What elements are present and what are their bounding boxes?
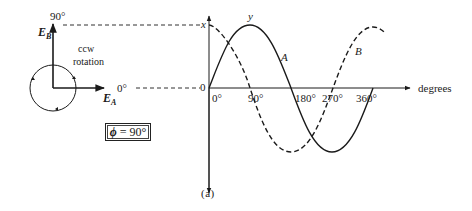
phi-symbol: ϕ — [110, 125, 117, 139]
tick-180: 180° — [295, 92, 316, 104]
tick-0: 0° — [212, 92, 222, 104]
peak-y-label: y — [247, 10, 253, 22]
figure-caption: (a) — [201, 187, 215, 199]
tick-360: 360° — [356, 92, 377, 104]
waveform-axes: degrees 0 x y 0° 90° 180° 270° 360° — [200, 10, 452, 193]
origin-label: 0 — [200, 81, 206, 93]
vector-EB-label: EB — [37, 25, 52, 41]
vector-EA-label: EA — [102, 91, 117, 107]
curve-B-label: B — [355, 45, 362, 57]
tick-270: 270° — [322, 92, 343, 104]
rotation-label-line2: rotation — [73, 56, 104, 67]
phase-value: = 90° — [117, 125, 147, 139]
angle-0-label: 0° — [117, 82, 127, 94]
diagram-canvas: 90° EB ccw rotation 0° EA degrees 0 x y … — [0, 0, 472, 211]
x-axis-label: degrees — [418, 82, 452, 94]
phase-difference-box: ϕ = 90° — [105, 123, 151, 141]
rotation-label-line1: ccw — [78, 43, 95, 54]
curve-A-label: A — [280, 51, 288, 63]
angle-90-label: 90° — [50, 10, 65, 22]
peak-x-label: x — [200, 18, 206, 30]
tick-90: 90° — [248, 92, 263, 104]
